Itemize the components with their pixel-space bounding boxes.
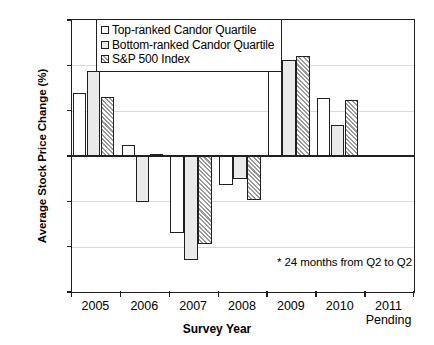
y-axis-tick-mark xyxy=(67,110,72,111)
bar xyxy=(282,60,296,156)
x-axis-tick-mark xyxy=(315,291,316,297)
x-axis-tick-mark xyxy=(71,291,72,297)
legend-swatch-icon xyxy=(101,41,109,49)
gridline xyxy=(72,111,414,112)
bar xyxy=(184,156,198,260)
bar xyxy=(87,71,101,156)
legend-label: S&P 500 Index xyxy=(112,52,190,66)
legend-label: Top-ranked Candor Quartile xyxy=(112,23,256,37)
x-axis-title: Survey Year xyxy=(0,322,434,336)
legend-item: S&P 500 Index xyxy=(101,52,274,67)
x-axis-tick-label-year: 2011 xyxy=(375,299,402,313)
bar xyxy=(345,100,359,156)
y-axis-tick-mark xyxy=(67,246,72,247)
bar xyxy=(317,98,331,156)
bar xyxy=(122,145,136,156)
legend-item: Bottom-ranked Candor Quartile xyxy=(101,38,274,53)
bar xyxy=(170,156,184,233)
legend-swatch-icon xyxy=(101,55,109,63)
x-axis-tick-mark xyxy=(169,291,170,297)
legend-item: Top-ranked Candor Quartile xyxy=(101,23,274,38)
legend-label: Bottom-ranked Candor Quartile xyxy=(112,38,274,52)
bar xyxy=(247,156,261,200)
bar xyxy=(150,154,164,156)
bar xyxy=(296,56,310,156)
x-axis-tick-mark xyxy=(120,291,121,297)
footnote-annotation: * 24 months from Q2 to Q2 xyxy=(277,256,412,268)
gridline xyxy=(72,247,414,248)
bar-chart: Average Stock Price Change (%) 6040200-2… xyxy=(0,0,434,345)
y-axis-tick-mark xyxy=(67,19,72,20)
bar xyxy=(233,156,247,179)
bar xyxy=(73,93,87,156)
bar xyxy=(219,156,233,185)
bar xyxy=(101,97,115,156)
bar xyxy=(331,125,345,156)
x-axis-tick-mark xyxy=(218,291,219,297)
gridline xyxy=(72,201,414,202)
x-axis-tick-mark xyxy=(364,291,365,297)
y-axis-tick-mark xyxy=(67,201,72,202)
y-axis-tick-mark xyxy=(67,155,72,156)
y-axis-title: Average Stock Price Change (%) xyxy=(36,31,48,281)
x-axis-tick-mark xyxy=(413,291,414,297)
x-axis-tick-mark xyxy=(266,291,267,297)
y-axis-tick-mark xyxy=(67,65,72,66)
bar xyxy=(136,156,150,202)
bar xyxy=(198,156,212,244)
legend-swatch-icon xyxy=(101,26,109,34)
legend: Top-ranked Candor QuartileBottom-ranked … xyxy=(96,19,282,72)
